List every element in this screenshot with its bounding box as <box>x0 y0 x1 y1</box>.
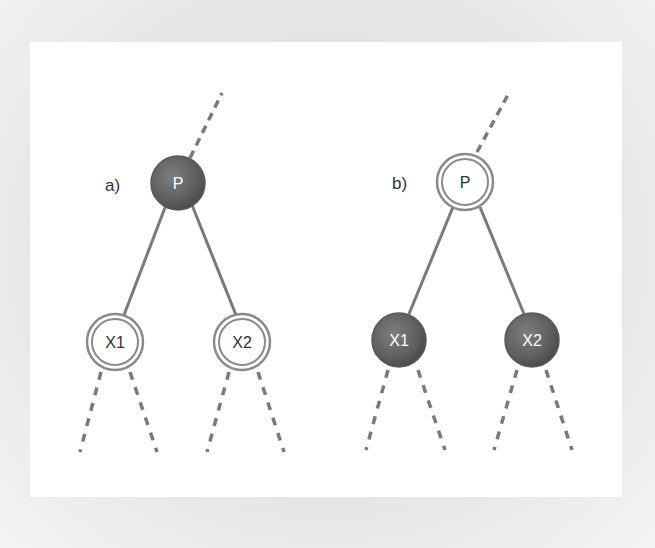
dashed-edge-x2-left <box>494 370 517 450</box>
node-label: X2 <box>232 334 252 351</box>
dashed-edge-x1-right <box>418 370 445 450</box>
dashed-edge-parent-up <box>190 93 222 158</box>
node-p-ring: P <box>437 154 493 210</box>
panel-label-b: b) <box>392 174 407 193</box>
node-label: P <box>173 175 184 192</box>
tree-b: b) P X1 X2 <box>366 91 572 450</box>
node-label: X1 <box>389 332 409 349</box>
dashed-edge-x2-right <box>258 372 284 452</box>
dashed-edge-x1-left <box>80 372 101 452</box>
tree-a: a) P X1 X2 <box>80 93 284 452</box>
dashed-edge-x2-right <box>546 370 572 450</box>
node-x2-ring: X2 <box>214 314 270 370</box>
node-label: P <box>460 174 471 191</box>
edge-p-x2 <box>480 207 524 314</box>
panel-label-a: a) <box>105 176 120 195</box>
dashed-edge-parent-up <box>477 91 510 152</box>
node-x1-ring: X1 <box>87 314 143 370</box>
dashed-edge-x2-left <box>207 372 229 452</box>
tree-diagram: a) P X1 X2 <box>0 0 655 548</box>
edge-p-x1 <box>409 207 453 314</box>
dashed-edge-x1-right <box>130 372 157 452</box>
node-label: X2 <box>522 332 542 349</box>
edge-p-x1 <box>124 205 166 315</box>
node-p-filled: P <box>151 156 205 210</box>
node-x2-filled: X2 <box>505 313 559 367</box>
edge-p-x2 <box>192 205 236 315</box>
node-label: X1 <box>105 334 125 351</box>
outer-frame: a) P X1 X2 <box>0 0 655 548</box>
node-x1-filled: X1 <box>372 313 426 367</box>
dashed-edge-x1-left <box>366 370 388 450</box>
